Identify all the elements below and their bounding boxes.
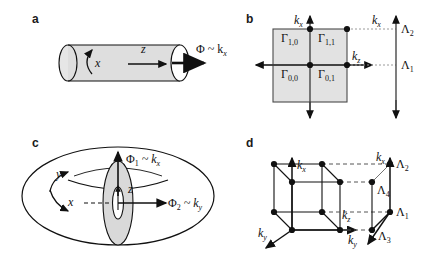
lambda-d-4-symbol: Λ xyxy=(377,183,386,197)
lambda-label-d-3: Λ3 xyxy=(378,229,391,245)
figure-canvas: a x z xyxy=(0,0,435,254)
lambda-dot-3 xyxy=(369,227,375,233)
panel-d-kx-label: kx xyxy=(297,158,306,174)
lambda-d-2-symbol: Λ xyxy=(396,157,405,171)
panel-d-kx-side-sub: x xyxy=(381,157,385,166)
panel-d-kz-label: kz xyxy=(342,208,350,224)
lambda-label-d-1: Λ1 xyxy=(396,205,409,221)
panel-d-kx-side-label: kx xyxy=(376,150,385,166)
lambda-d-1-sub: 1 xyxy=(405,212,409,221)
lambda-d-4-sub: 4 xyxy=(386,190,390,199)
cube-edges xyxy=(274,164,340,230)
panel-d-ky-side-sub: y xyxy=(353,240,357,249)
panel-d-graphics xyxy=(0,0,435,254)
lambda-label-d-2: Λ2 xyxy=(396,157,409,173)
lambda-label-d-4: Λ4 xyxy=(377,183,390,199)
panel-d-kz-sub: z xyxy=(347,215,350,224)
lambda-d-1-symbol: Λ xyxy=(396,205,405,219)
panel-d-ky-label: ky xyxy=(258,226,267,242)
panel-d-ky-sub: y xyxy=(263,233,267,242)
lambda-dot-1 xyxy=(387,209,393,215)
lambda-d-3-sub: 3 xyxy=(387,236,391,245)
panel-d-ky-axis xyxy=(266,230,292,248)
panel-d-kx-sub: x xyxy=(302,165,306,174)
lambda-dot-2 xyxy=(387,161,393,167)
lambda-dot-4 xyxy=(369,179,375,185)
panel-d-ky-side-label: ky xyxy=(348,233,357,249)
lambda-d-3-symbol: Λ xyxy=(378,229,387,243)
lambda-d-2-sub: 2 xyxy=(405,164,409,173)
